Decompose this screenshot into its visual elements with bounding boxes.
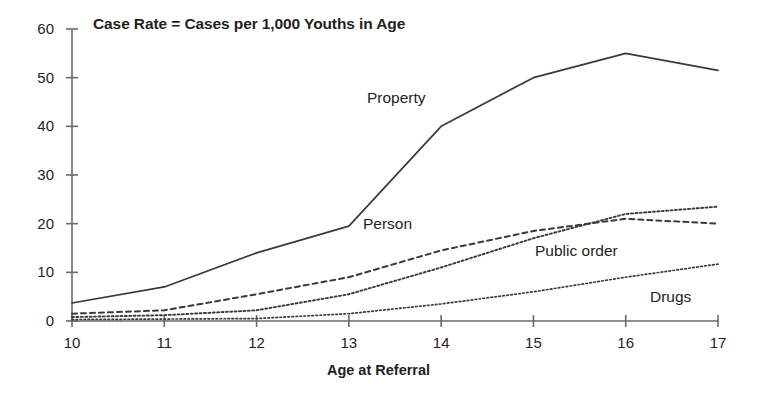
x-axis-tick-label: 11 [139, 335, 189, 350]
x-axis-tick-label: 17 [693, 335, 743, 350]
x-axis-tick-label: 10 [47, 335, 97, 350]
y-axis-tick-label: 60 [8, 21, 54, 36]
series-label-person: Person [363, 216, 412, 232]
series-label-property: Property [367, 90, 426, 106]
y-axis-tick-label: 20 [8, 216, 54, 231]
x-axis-tick-label: 15 [508, 335, 558, 350]
y-axis-tick-label: 10 [8, 264, 54, 279]
series-line-person [72, 219, 718, 314]
series-label-public-order: Public order [535, 243, 618, 259]
y-axis-tick-label: 30 [8, 167, 54, 182]
series-line-drugs [72, 264, 718, 319]
x-axis-tick-label: 14 [416, 335, 466, 350]
series-label-drugs: Drugs [650, 289, 691, 305]
chart-title: Case Rate = Cases per 1,000 Youths in Ag… [93, 15, 405, 33]
y-axis-tick-label: 0 [8, 313, 54, 328]
y-axis-tick-label: 40 [8, 118, 54, 133]
x-axis-title: Age at Referral [0, 362, 757, 378]
x-axis-tick-label: 16 [601, 335, 651, 350]
y-axis-tick-label: 50 [8, 70, 54, 85]
chart-container: Case Rate = Cases per 1,000 Youths in Ag… [0, 0, 757, 409]
x-axis-tick-label: 12 [232, 335, 282, 350]
x-axis-tick-label: 13 [324, 335, 374, 350]
